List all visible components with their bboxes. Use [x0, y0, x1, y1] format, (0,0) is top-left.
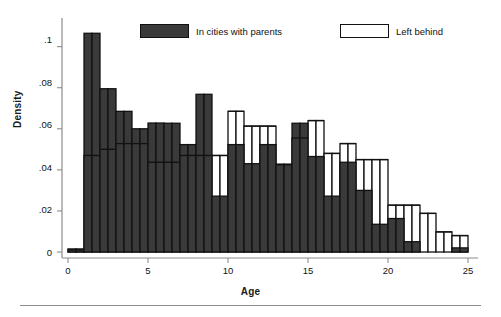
- histogram-bar: [372, 224, 380, 252]
- histogram-bar: [308, 157, 316, 252]
- histogram-bar: [332, 196, 340, 252]
- histogram-bar: [140, 129, 148, 252]
- x-tick-label-0: 0: [58, 265, 78, 276]
- histogram-bar: [164, 123, 172, 252]
- y-axis-title: Density: [12, 90, 23, 128]
- plot-area: 0 .02 .04 .06 .08 .1 0 5 10 15 20 25 Den…: [0, 0, 501, 317]
- histogram-bar: [124, 111, 132, 252]
- histogram-bar: [236, 145, 244, 252]
- histogram-bar: [260, 145, 268, 252]
- histogram-bar: [180, 145, 188, 252]
- histogram-bar: [212, 196, 220, 252]
- histogram-bar: [244, 164, 252, 252]
- y-tick-label-008: .08: [24, 77, 52, 88]
- histogram-bar: [252, 164, 260, 252]
- x-axis-title: Age: [0, 286, 501, 297]
- histogram-bar: [172, 123, 180, 252]
- x-tick-label-15: 15: [298, 265, 318, 276]
- histogram-bar: [100, 89, 108, 252]
- histogram-bar: [388, 219, 396, 252]
- histogram-bar: [364, 190, 372, 252]
- histogram-bar: [420, 213, 428, 252]
- histogram-bar: [132, 129, 140, 252]
- y-tick-label-01: .1: [24, 34, 52, 45]
- x-tick-label-5: 5: [138, 265, 158, 276]
- histogram-bar: [92, 33, 100, 252]
- histogram-bar: [268, 145, 276, 252]
- y-tick-label-006: .06: [24, 119, 52, 130]
- footer-divider: [20, 305, 481, 306]
- histogram-bar: [228, 145, 236, 252]
- x-tick-label-20: 20: [378, 265, 398, 276]
- histogram-bar: [340, 162, 348, 252]
- y-tick-label-004: .04: [24, 162, 52, 173]
- x-tick-label-25: 25: [458, 265, 478, 276]
- histogram-bar: [284, 164, 292, 252]
- legend-label-in-cities-with-parents: In cities with parents: [196, 26, 282, 37]
- histogram-figure: 0 .02 .04 .06 .08 .1 0 5 10 15 20 25 Den…: [0, 0, 501, 317]
- y-tick-label-002: .02: [24, 204, 52, 215]
- histogram-bar: [316, 157, 324, 252]
- legend-swatch-in-cities-with-parents: [140, 24, 189, 38]
- histogram-bar: [196, 94, 204, 252]
- legend-swatch-left-behind: [340, 24, 389, 38]
- histogram-bar: [148, 123, 156, 252]
- histogram-bar: [300, 123, 308, 252]
- histogram-bar: [444, 232, 452, 252]
- histogram-bar: [108, 89, 116, 252]
- histogram-bar: [396, 219, 404, 252]
- x-tick-label-10: 10: [218, 265, 238, 276]
- histogram-bar: [116, 111, 124, 252]
- histogram-bar: [276, 164, 284, 252]
- histogram-bar: [156, 123, 164, 252]
- histogram-bar: [452, 248, 460, 252]
- histogram-bar: [324, 196, 332, 252]
- histogram-bar: [460, 248, 468, 252]
- y-tick-label-0: 0: [24, 247, 52, 258]
- histogram-bar: [188, 145, 196, 252]
- histogram-bar: [380, 224, 388, 252]
- histogram-bar: [348, 162, 356, 252]
- histogram-bar: [356, 190, 364, 252]
- histogram-bar: [292, 123, 300, 252]
- histogram-bar: [204, 94, 212, 252]
- histogram-bar: [84, 33, 92, 252]
- histogram-bar: [428, 213, 436, 252]
- histogram-bar: [220, 196, 228, 252]
- histogram-bar: [436, 232, 444, 252]
- histogram-bar: [412, 242, 420, 252]
- histogram-bar: [404, 242, 412, 252]
- legend-label-left-behind: Left behind: [396, 26, 443, 37]
